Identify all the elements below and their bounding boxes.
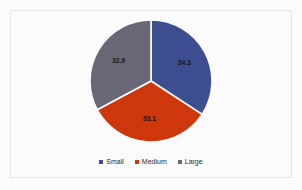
legend-swatch-large-icon <box>178 160 182 164</box>
chart-legend: Small Medium Large <box>0 158 302 165</box>
legend-item-medium[interactable]: Medium <box>135 158 167 165</box>
legend-label-large: Large <box>185 158 203 165</box>
pie-svg: 34.3 33.1 32.9 <box>89 19 213 143</box>
legend-swatch-small-icon <box>99 160 103 164</box>
pie-plot-area: 34.3 33.1 32.9 <box>89 19 213 143</box>
pie-label-small: 34.3 <box>178 59 191 66</box>
pie-chart-figure: 34.3 33.1 32.9 Small Medium Large <box>0 0 302 190</box>
legend-swatch-medium-icon <box>135 160 139 164</box>
pie-label-large: 32.9 <box>112 57 125 64</box>
legend-item-small[interactable]: Small <box>99 158 124 165</box>
legend-label-medium: Medium <box>142 158 167 165</box>
pie-slices <box>90 20 212 142</box>
pie-label-medium: 33.1 <box>143 115 156 122</box>
legend-item-large[interactable]: Large <box>178 158 203 165</box>
legend-label-small: Small <box>106 158 124 165</box>
